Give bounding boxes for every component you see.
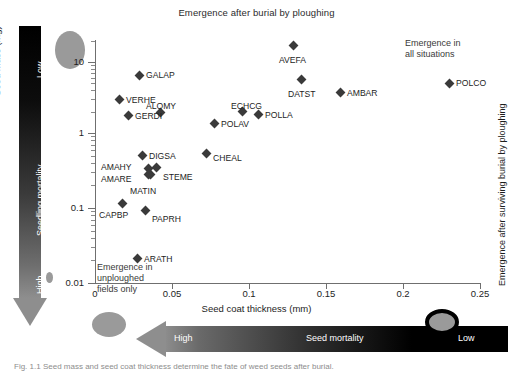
y-tick-minor bbox=[91, 231, 95, 232]
data-point-marker bbox=[201, 148, 211, 158]
y-tick-minor bbox=[91, 156, 95, 157]
data-point-label: GALAP bbox=[146, 70, 175, 80]
data-point-marker bbox=[151, 162, 161, 172]
y-tick-minor bbox=[91, 225, 95, 226]
y-tick-major bbox=[88, 133, 95, 134]
data-point-label: AVEFA bbox=[279, 55, 306, 65]
data-point-label: CAPBP bbox=[99, 210, 128, 220]
y-tick-label: 1 bbox=[54, 127, 84, 138]
x-tick-label: 0.25 bbox=[460, 288, 500, 299]
data-point-label: GERDI bbox=[135, 111, 162, 121]
data-point-label: DIGSA bbox=[149, 151, 176, 161]
y-tick-major bbox=[88, 62, 95, 63]
x-tick-label: 0.1 bbox=[229, 288, 269, 299]
y-tick-minor bbox=[91, 150, 95, 151]
seed-ellipse-small-left bbox=[46, 272, 53, 283]
y-tick-minor bbox=[91, 73, 95, 74]
y-tick-minor bbox=[91, 145, 95, 146]
data-point-marker bbox=[296, 74, 306, 84]
y-tick-minor bbox=[91, 78, 95, 79]
data-point-marker bbox=[140, 205, 150, 215]
y-tick-minor bbox=[91, 247, 95, 248]
data-point-label: POLLA bbox=[265, 110, 293, 120]
annotation-all-situations: Emergence in all situations bbox=[405, 38, 461, 60]
data-point-marker bbox=[335, 87, 345, 97]
seed-mortality-title: Seed mortality bbox=[306, 333, 364, 343]
data-point-marker bbox=[114, 94, 124, 104]
data-point-label: AMARE bbox=[101, 174, 132, 184]
data-point-marker bbox=[123, 110, 133, 120]
data-point-label: STEME bbox=[163, 172, 193, 182]
y-tick-label: 10 bbox=[54, 56, 84, 67]
y-axis-title: Seed mass (mg) bbox=[0, 26, 2, 96]
y-tick-label: 0.1 bbox=[54, 202, 84, 213]
data-point-label: POLAV bbox=[221, 119, 249, 129]
chart-title: Emergence after burial by ploughing bbox=[0, 7, 513, 18]
data-point-label: ALOMY bbox=[146, 101, 176, 111]
seedling-mortality-high-label: High bbox=[35, 275, 45, 294]
seed-mortality-low-label: Low bbox=[458, 333, 475, 343]
y-tick-major bbox=[88, 283, 95, 284]
y-tick-label: 0.01 bbox=[54, 277, 84, 288]
y-tick-minor bbox=[91, 238, 95, 239]
y-tick-minor bbox=[91, 172, 95, 173]
y-tick-minor bbox=[91, 220, 95, 221]
data-point-label: AMAHY bbox=[101, 162, 132, 172]
data-point-label: ARATH bbox=[144, 254, 173, 264]
data-point-marker bbox=[209, 118, 219, 128]
figure-caption: Fig. 1.1 Seed mass and seed coat thickne… bbox=[14, 362, 509, 372]
data-point-label: DATST bbox=[288, 89, 316, 99]
y-tick-minor bbox=[91, 65, 95, 66]
y-tick-minor bbox=[91, 163, 95, 164]
x-axis-title: Seed coat thickness (mm) bbox=[0, 303, 513, 314]
y-tick-minor bbox=[91, 41, 95, 42]
data-point-marker bbox=[444, 78, 454, 88]
annotation-unploughed-fields-only: Emergence in unploughed fields only bbox=[97, 262, 153, 295]
data-point-label: PAPRH bbox=[152, 214, 181, 224]
y-tick-minor bbox=[91, 99, 95, 100]
y-tick-minor bbox=[91, 215, 95, 216]
y-axis-line bbox=[95, 40, 96, 284]
y-tick-minor bbox=[91, 136, 95, 137]
data-point-marker bbox=[117, 198, 127, 208]
data-point-label: MATIN bbox=[130, 186, 156, 196]
x-tick-label: 0.05 bbox=[152, 288, 192, 299]
y-tick-minor bbox=[91, 140, 95, 141]
y-tick-major bbox=[88, 208, 95, 209]
data-point-label: CHEAL bbox=[213, 153, 242, 163]
data-point-label: AMBAR bbox=[347, 88, 378, 98]
seed-ellipse-bottom-left bbox=[92, 312, 126, 337]
right-axis-title: Emergence after surviving burial by plou… bbox=[497, 103, 507, 286]
x-tick-label: 0.2 bbox=[383, 288, 423, 299]
data-point-marker bbox=[137, 150, 147, 160]
y-tick-minor bbox=[91, 211, 95, 212]
data-point-marker bbox=[288, 40, 298, 50]
data-point-label: POLCO bbox=[456, 78, 486, 88]
y-tick-minor bbox=[91, 90, 95, 91]
y-tick-minor bbox=[91, 185, 95, 186]
y-tick-minor bbox=[91, 69, 95, 70]
figure-container: Emergence after burial by ploughing Low … bbox=[0, 0, 513, 372]
x-axis-line bbox=[95, 283, 481, 284]
y-tick-minor bbox=[91, 112, 95, 113]
data-point-marker bbox=[134, 70, 144, 80]
x-tick-label: 0.15 bbox=[306, 288, 346, 299]
seed-mortality-high-label: High bbox=[174, 333, 193, 343]
y-tick-minor bbox=[91, 83, 95, 84]
seed-mortality-arrowhead bbox=[136, 321, 166, 357]
y-tick-minor bbox=[91, 260, 95, 261]
